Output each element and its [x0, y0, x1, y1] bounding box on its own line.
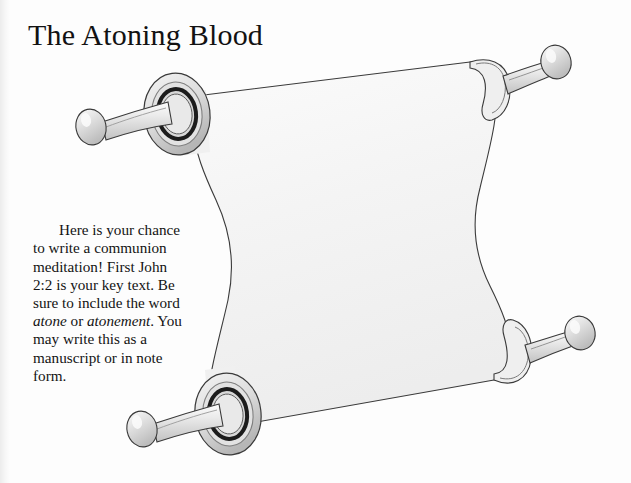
keyword-atonement: atonement — [87, 312, 150, 329]
instruction-conjunction: or — [67, 312, 87, 329]
keyword-atone: atone — [33, 312, 67, 329]
rod-cap-bottom-right — [494, 313, 599, 384]
rod-cap-top-right — [470, 42, 575, 121]
instruction-part-1: Here is your chance to write a communion… — [33, 221, 180, 311]
scroll-worksheet-page: The Atoning Blood — [0, 0, 631, 483]
instruction-paragraph: Here is your chance to write a communion… — [33, 221, 185, 385]
scroll-sheet — [190, 62, 512, 429]
rod-cap-top-left — [73, 69, 215, 158]
